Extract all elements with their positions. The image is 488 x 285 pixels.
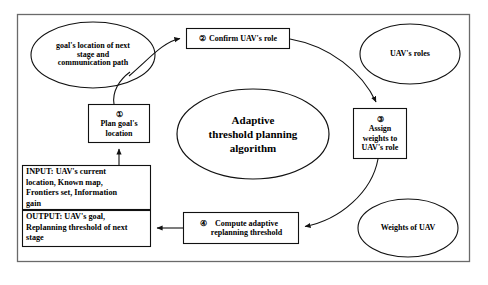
step2-number: ② bbox=[199, 34, 206, 43]
uav-roles-ellipse bbox=[360, 24, 460, 84]
step4-line1: ④ Compute adaptive replanning threshold bbox=[200, 219, 283, 237]
step1-number: ① bbox=[116, 110, 123, 119]
step4-number: ④ bbox=[200, 219, 207, 228]
step3-label: Assign weights to UAV's role bbox=[362, 124, 399, 152]
input-box bbox=[23, 166, 151, 210]
goal-location-ellipse bbox=[31, 22, 155, 88]
step1-label: Plan goal's location bbox=[100, 119, 137, 137]
step2-content: ② Confirm UAV's role bbox=[186, 29, 290, 48]
step3-content: ③ Assign weights to UAV's role bbox=[353, 109, 407, 158]
step3-number: ③ bbox=[377, 115, 384, 124]
step4-label: Compute adaptive replanning threshold bbox=[211, 219, 283, 237]
step1-content: ① Plan goal's location bbox=[88, 105, 150, 143]
step2-label: Confirm UAV's role bbox=[209, 34, 277, 43]
central-algorithm-ellipse bbox=[177, 89, 329, 179]
diagram-canvas: goal's location of next stage and commun… bbox=[0, 0, 488, 285]
output-box bbox=[23, 211, 151, 247]
step4-content: ④ Compute adaptive replanning threshold bbox=[183, 213, 299, 243]
weights-of-uav-ellipse bbox=[358, 199, 458, 257]
